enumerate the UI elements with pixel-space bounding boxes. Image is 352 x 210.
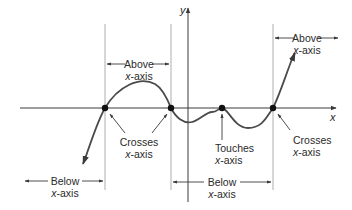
- point-crosses-2: [168, 105, 174, 111]
- label-below-2: Below x-axis: [205, 176, 239, 200]
- label-above-2: Above x-axis: [290, 32, 324, 56]
- pointer-crosses-2: [278, 114, 290, 130]
- point-touches: [219, 105, 225, 111]
- label-crosses-1: Crosses x-axis: [119, 136, 159, 160]
- pointer-crosses-1a: [110, 114, 125, 133]
- y-axis-label: y: [180, 4, 186, 16]
- label-below-1: Below x-axis: [48, 175, 82, 199]
- point-crosses-1: [102, 105, 108, 111]
- pointer-crosses-1b: [152, 114, 167, 133]
- point-crosses-3: [270, 105, 276, 111]
- label-crosses-2: Crosses x-axis: [293, 134, 335, 158]
- label-touches: Touches x-axis: [215, 142, 257, 166]
- label-above-1: Above x-axis: [122, 58, 156, 82]
- x-axis-label: x: [330, 111, 336, 123]
